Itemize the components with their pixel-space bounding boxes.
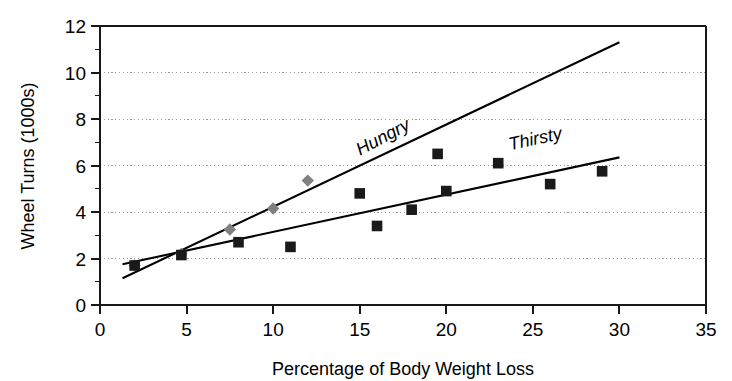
y-tick-label-6: 6 (75, 156, 86, 177)
data-point-thirsty (176, 250, 187, 261)
y-tick-label-4: 4 (75, 202, 86, 223)
data-point-thirsty (285, 242, 296, 253)
x-tick-label-30: 30 (609, 319, 630, 340)
data-point-thirsty (354, 188, 365, 199)
y-tick-label-10: 10 (65, 63, 86, 84)
y-tick-label-8: 8 (75, 109, 86, 130)
y-tick-label-0: 0 (75, 295, 86, 316)
y-tick-label-12: 12 (65, 16, 86, 37)
data-point-thirsty (432, 149, 443, 160)
x-tick-label-15: 15 (349, 319, 370, 340)
x-tick-label-5: 5 (181, 319, 192, 340)
scatter-chart-canvas: 05101520253035 024681012 HungryThirsty P… (0, 0, 732, 381)
x-tick-label-20: 20 (436, 319, 457, 340)
data-point-thirsty (441, 186, 452, 197)
chart-figure: 05101520253035 024681012 HungryThirsty P… (0, 0, 732, 381)
data-point-thirsty (406, 204, 417, 215)
y-axis-title: Wheel Turns (1000s) (18, 82, 38, 249)
x-tick-label-25: 25 (522, 319, 543, 340)
data-point-thirsty (129, 260, 140, 271)
data-point-thirsty (233, 237, 244, 248)
data-point-thirsty (372, 221, 383, 232)
data-point-thirsty (545, 179, 556, 190)
x-tick-label-35: 35 (695, 319, 716, 340)
x-axis-title: Percentage of Body Weight Loss (272, 359, 534, 379)
y-tick-label-2: 2 (75, 249, 86, 270)
x-tick-label-0: 0 (95, 319, 106, 340)
x-tick-label-10: 10 (263, 319, 284, 340)
data-point-thirsty (493, 158, 504, 169)
data-point-thirsty (597, 166, 608, 177)
